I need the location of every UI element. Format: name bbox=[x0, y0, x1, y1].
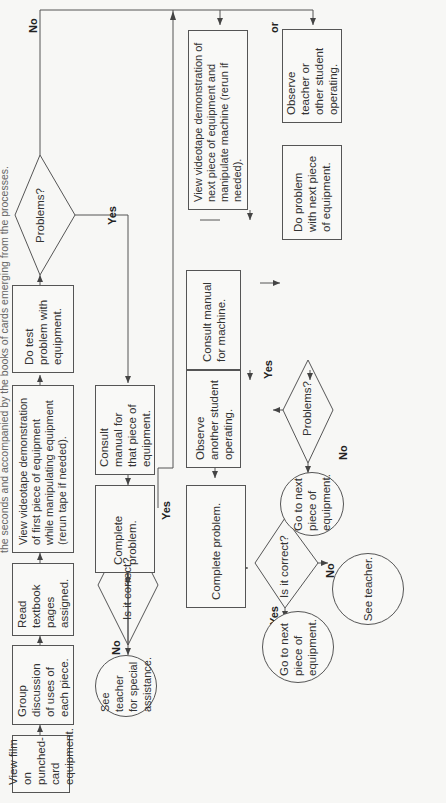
yes-label-problems-1: Yes bbox=[106, 206, 118, 225]
consult-manual-machine-text: Consult manual for machine. bbox=[200, 278, 228, 362]
yes-label-problems-2: Yes bbox=[262, 360, 274, 379]
go-next-1-text: Go to next piece of equipment. bbox=[291, 477, 333, 531]
is-correct-decision-1: Is it correct? bbox=[121, 557, 133, 620]
no-label-correct-1: No bbox=[110, 640, 122, 655]
do-test-problem-box: Do test problem with equipment. bbox=[12, 285, 74, 373]
view-videotape-first-box: View videotape demonstration of first pi… bbox=[12, 385, 74, 553]
observe-teacher-text: Observe teacher or other student operati… bbox=[284, 37, 340, 115]
view-film-box: View film on punched-card equipment. bbox=[12, 735, 70, 793]
see-teacher-special-node: See teacher for special assistance. bbox=[95, 655, 157, 717]
problems-decision-2: Problems? bbox=[301, 381, 313, 436]
do-test-problem-text: Do test problem with equipment. bbox=[22, 293, 64, 365]
complete-problem-2-box: Complete problem. bbox=[186, 485, 246, 608]
consult-manual-piece-box: Consult manual for that piece of equipme… bbox=[95, 385, 155, 475]
view-videotape-next-box: View videotape demonstration of next pie… bbox=[188, 30, 248, 210]
group-discussion-text: Group discussion of uses of each piece. bbox=[15, 653, 71, 717]
is-correct-decision-2: Is it correct? bbox=[278, 535, 290, 598]
flowchart: the seconds and accompanied by the books… bbox=[0, 0, 446, 803]
view-film-text: View film on punched-card equipment. bbox=[6, 728, 76, 785]
observe-another-text: Observe another student operating. bbox=[193, 378, 235, 460]
read-textbook-text: Read textbook pages assigned. bbox=[15, 571, 71, 628]
see-teacher-text: See teacher. bbox=[361, 557, 375, 622]
view-videotape-next-text: View videotape demonstration of next pie… bbox=[192, 38, 244, 202]
do-problem-next-text: Do problem with next piece of equipment. bbox=[291, 153, 333, 232]
read-textbook-box: Read textbook pages assigned. bbox=[12, 563, 74, 636]
consult-manual-machine-box: Consult manual for machine. bbox=[186, 270, 241, 370]
see-teacher-node: See teacher. bbox=[332, 553, 404, 625]
no-label-top: No bbox=[27, 18, 39, 33]
observe-another-box: Observe another student operating. bbox=[186, 370, 241, 468]
do-problem-next-box: Do problem with next piece of equipment. bbox=[282, 145, 342, 240]
observe-teacher-box: Observe teacher or other student operati… bbox=[282, 29, 342, 123]
consult-manual-piece-text: Consult manual for that piece of equipme… bbox=[97, 393, 153, 467]
go-next-2-text: Go to next piece of equipment. bbox=[277, 618, 319, 676]
problems-decision-1: Problems? bbox=[34, 188, 46, 243]
view-videotape-first-text: View videotape demonstration of first pi… bbox=[17, 393, 69, 545]
group-discussion-box: Group discussion of uses of each piece. bbox=[12, 645, 74, 725]
complete-problem-2-text: Complete problem. bbox=[209, 503, 223, 600]
go-next-2-node: Go to next piece of equipment. bbox=[262, 611, 334, 683]
or-label: or bbox=[268, 22, 280, 33]
complete-problem-1-text: Complete problem. bbox=[111, 493, 139, 565]
yes-label-correct-1: Yes bbox=[160, 501, 172, 520]
see-teacher-special-text: See teacher for special assistance. bbox=[98, 660, 154, 712]
no-label-problems-2: No bbox=[337, 445, 349, 460]
go-next-1-node: Go to next piece of equipment. bbox=[280, 472, 344, 536]
